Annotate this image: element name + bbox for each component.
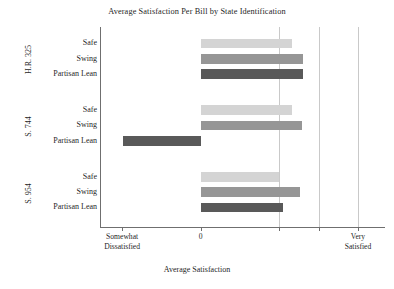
bar (201, 121, 302, 131)
bar (201, 105, 292, 115)
category-label: Partisan Lean (0, 136, 97, 145)
gridline (358, 27, 359, 227)
category-label: Partisan Lean (0, 69, 97, 78)
x-tick (358, 227, 359, 231)
category-label: Swing (0, 54, 97, 63)
gridline (319, 27, 320, 227)
bar (201, 54, 304, 64)
category-label: Partisan Lean (0, 202, 97, 211)
bar (201, 39, 292, 49)
bar (123, 136, 200, 146)
panel-label: S. 744 (24, 99, 33, 155)
panel-label: S. 954 (24, 165, 33, 221)
category-label: Safe (0, 172, 97, 181)
panel-label: H.R. 325 (24, 32, 33, 88)
category-label: Swing (0, 120, 97, 129)
x-axis-title: Average Satisfaction (0, 265, 394, 274)
x-tick (279, 227, 280, 231)
plot-area (101, 27, 386, 227)
category-label: Swing (0, 187, 97, 196)
bar (201, 187, 300, 197)
x-tick (319, 227, 320, 231)
bar (201, 172, 279, 182)
chart-figure: Average Satisfaction Per Bill by State I… (0, 0, 394, 289)
category-label: Safe (0, 105, 97, 114)
category-label: Safe (0, 38, 97, 47)
x-tick (201, 227, 202, 231)
x-axis-line (100, 227, 385, 228)
x-tick-label: 0 (161, 232, 241, 242)
chart-title: Average Satisfaction Per Bill by State I… (0, 7, 394, 16)
x-tick-label: Somewhat Dissatisfied (82, 232, 162, 251)
x-tick (122, 227, 123, 231)
bar (201, 203, 283, 213)
bar (201, 69, 304, 79)
x-tick-label: Very Satisfied (318, 232, 394, 251)
